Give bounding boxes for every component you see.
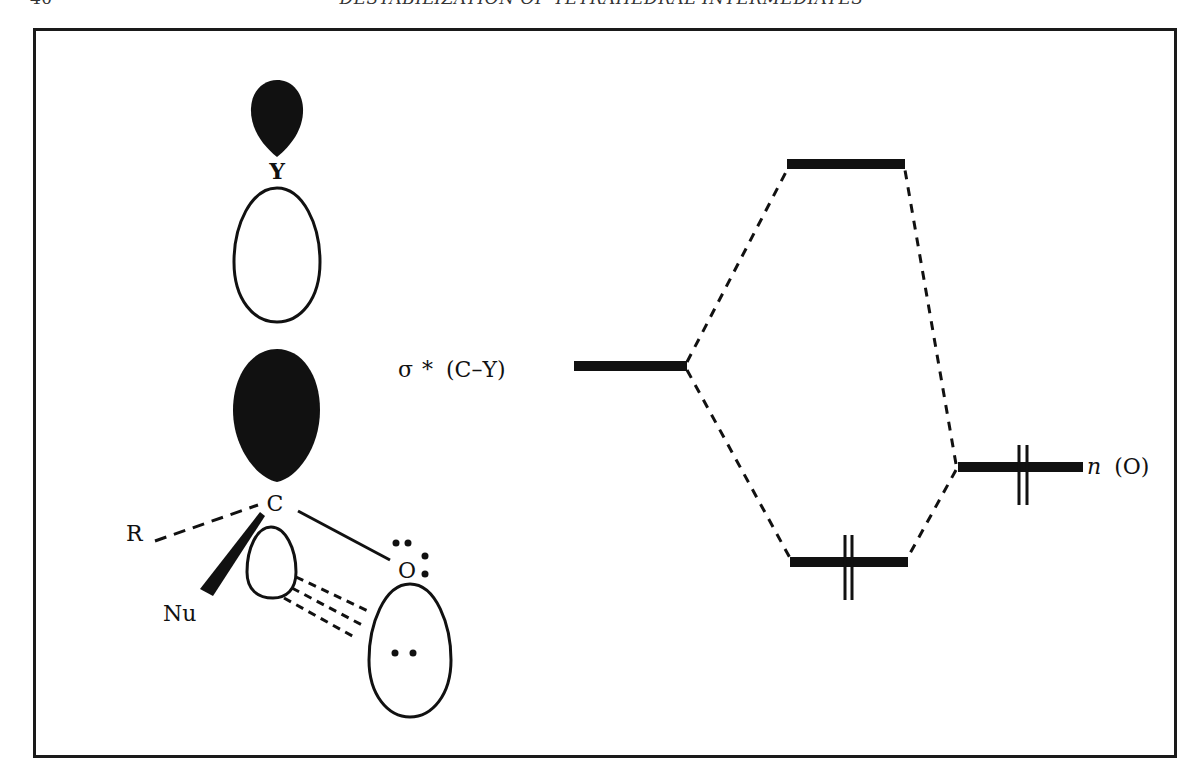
bonding-electron-pair <box>845 535 852 600</box>
molecular-orbital-picture: Y C R Nu O <box>126 80 451 717</box>
oxygen-label: (O) <box>1114 454 1149 479</box>
atom-label-nu: Nu <box>163 601 196 626</box>
level-sigma-star <box>574 361 687 371</box>
corr-n-to-top <box>905 170 956 464</box>
sigma-symbol: σ <box>398 357 413 382</box>
atom-label-y: Y <box>268 158 285 184</box>
level-antibonding <box>787 159 905 169</box>
c-o-bond <box>298 511 390 560</box>
y-small-filled-lobe <box>251 80 303 157</box>
bond-label: (C–Y) <box>446 357 506 382</box>
energy-level-diagram: σ * (C–Y) n (O) <box>398 159 1149 600</box>
n-oxygen-electron-pair <box>1019 445 1027 505</box>
corr-n-to-bottom <box>908 470 956 557</box>
correlation-lines <box>687 170 956 558</box>
corr-sigma-to-bottom <box>687 370 790 558</box>
star-symbol: * <box>422 357 433 382</box>
atom-label-r: R <box>126 521 144 546</box>
atom-label-c: C <box>267 491 284 516</box>
carbon-back-lobe <box>247 527 296 598</box>
level-label-n-oxygen: n (O) <box>1087 454 1149 479</box>
level-bonding <box>790 557 908 567</box>
corr-sigma-to-top <box>687 170 787 362</box>
level-label-sigma-star: σ * (C–Y) <box>398 357 506 382</box>
oxygen-lone-pair-orbital <box>369 584 451 717</box>
n-symbol: n <box>1087 454 1101 479</box>
atom-label-o: O <box>398 558 416 583</box>
y-large-open-lobe <box>234 188 320 322</box>
carbon-filled-lobe <box>233 349 320 482</box>
overlap-dashed-lines <box>284 577 368 638</box>
orbital-diagram: Y C R Nu O <box>0 0 1203 781</box>
